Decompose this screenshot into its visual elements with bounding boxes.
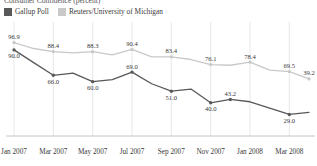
- data-point: [288, 70, 291, 73]
- data-label: 60.0: [87, 84, 99, 91]
- x-tick-label: May 2007: [78, 148, 107, 156]
- data-label: 66.0: [48, 78, 60, 85]
- x-axis-tick-labels: Jan 2007Mar 2007May 2007Jul 2007Sep 2007…: [0, 148, 317, 160]
- data-label: 69.0: [126, 63, 138, 70]
- data-label: 88.4: [48, 42, 60, 49]
- data-point: [52, 50, 55, 53]
- legend-swatch-gallup: [4, 8, 12, 16]
- data-label: 78.4: [244, 53, 256, 60]
- data-label: 96.9: [8, 33, 20, 40]
- data-label: 51.0: [166, 94, 178, 101]
- data-point: [130, 48, 133, 51]
- x-tick-label: Mar 2008: [275, 148, 303, 156]
- legend-label-gallup: Gallup Poll: [15, 7, 49, 16]
- data-point: [12, 48, 15, 51]
- x-tick-label: Sep 2007: [158, 148, 185, 156]
- data-point: [12, 41, 15, 44]
- data-point: [170, 55, 173, 58]
- data-point: [52, 74, 55, 77]
- legend-swatch-reuters: [58, 8, 66, 16]
- x-tick-label: Jan 2007: [1, 148, 27, 156]
- data-point: [130, 70, 133, 73]
- data-point: [209, 101, 212, 104]
- data-label: 90.4: [126, 40, 138, 47]
- legend-item-gallup[interactable]: Gallup Poll: [4, 7, 49, 16]
- chart-title: Consumer Confidence (percent): [4, 0, 304, 5]
- data-point: [229, 98, 232, 101]
- chart-container: Consumer Confidence (percent) Gallup Pol…: [0, 0, 317, 166]
- data-point: [209, 63, 212, 66]
- plot-area: 96.988.488.390.483.476.178.469.539.290.0…: [0, 22, 317, 144]
- data-label: 90.0: [8, 52, 20, 59]
- x-tick-label: Jan 2008: [237, 148, 263, 156]
- data-point: [170, 89, 173, 92]
- data-label: 76.1: [205, 55, 217, 62]
- data-point: [91, 50, 94, 53]
- data-label: 40.0: [205, 105, 217, 112]
- data-point: [307, 77, 310, 80]
- data-label: 83.4: [166, 47, 178, 54]
- chart-svg: 96.988.488.390.483.476.178.469.539.290.0…: [0, 22, 317, 144]
- data-point: [248, 60, 251, 63]
- chart-legend: Gallup Poll Reuters/University of Michig…: [4, 6, 163, 17]
- x-tick-label: Mar 2007: [39, 148, 67, 156]
- x-tick-label: Jul 2007: [120, 148, 145, 156]
- data-point: [288, 113, 291, 116]
- x-tick-label: Nov 2007: [196, 148, 225, 156]
- data-label: 69.5: [284, 62, 296, 69]
- legend-label-reuters: Reuters/University of Michigan: [69, 7, 163, 16]
- data-label: 88.3: [87, 42, 99, 49]
- data-label: 39.2: [303, 69, 315, 76]
- data-point: [91, 80, 94, 83]
- data-label: 43.2: [225, 90, 237, 97]
- data-label: 29.0: [284, 117, 296, 124]
- legend-item-reuters[interactable]: Reuters/University of Michigan: [58, 7, 163, 16]
